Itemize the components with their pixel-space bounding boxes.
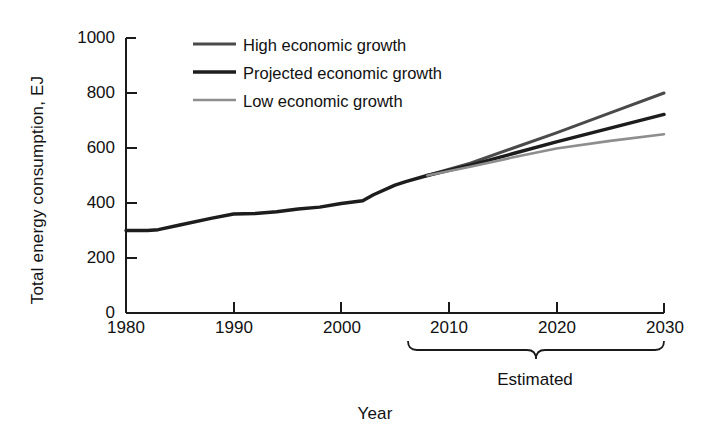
estimated-brace	[408, 341, 664, 359]
series-line-low-economic-growth	[427, 134, 664, 175]
y-axis-ticks	[126, 93, 137, 258]
series-line-historical	[126, 176, 427, 231]
axis-lines	[126, 38, 664, 313]
series-line-high-economic-growth	[427, 93, 664, 176]
x-axis-ticks	[234, 302, 557, 313]
chart-canvas	[0, 0, 712, 442]
chart-figure: Total energy consumption, EJ Year 1000 8…	[0, 0, 712, 442]
series-line-projected-economic-growth	[427, 114, 664, 175]
